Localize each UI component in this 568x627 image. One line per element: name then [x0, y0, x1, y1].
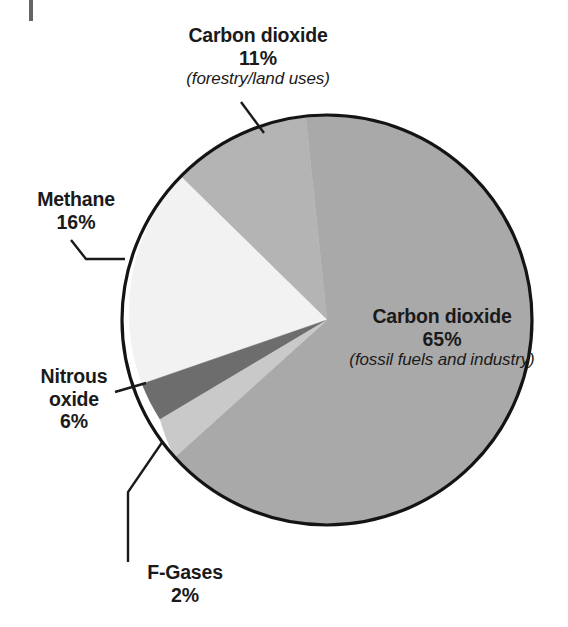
pie-chart-figure: Carbon dioxide 11% (forestry/land uses) … [0, 0, 568, 627]
label-f-gases-name: F-Gases [110, 561, 260, 584]
label-methane-percent: 16% [6, 211, 146, 234]
label-carbon-dioxide-fossil: Carbon dioxide 65% (fossil fuels and ind… [336, 305, 548, 370]
label-nitrous-oxide-name-line2: oxide [10, 388, 138, 411]
label-co2-fossil-qualifier: (fossil fuels and industry) [336, 350, 548, 370]
leader-line-methane [71, 240, 125, 259]
label-nitrous-oxide: Nitrous oxide 6% [10, 365, 138, 433]
label-co2-forestry-qualifier: (forestry/land uses) [128, 69, 388, 89]
label-co2-fossil-percent: 65% [336, 328, 548, 351]
label-carbon-dioxide-forestry: Carbon dioxide 11% (forestry/land uses) [128, 24, 388, 89]
leader-line-f-gases [128, 441, 163, 562]
label-co2-fossil-name: Carbon dioxide [336, 305, 548, 328]
label-f-gases-percent: 2% [110, 584, 260, 607]
label-f-gases: F-Gases 2% [110, 561, 260, 606]
label-nitrous-oxide-percent: 6% [10, 410, 138, 433]
label-co2-forestry-percent: 11% [128, 47, 388, 70]
label-nitrous-oxide-name-line1: Nitrous [10, 365, 138, 388]
label-methane: Methane 16% [6, 188, 146, 233]
label-methane-name: Methane [6, 188, 146, 211]
label-co2-forestry-name: Carbon dioxide [128, 24, 388, 47]
